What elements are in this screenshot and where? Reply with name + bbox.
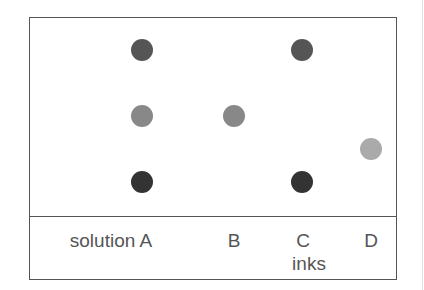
axis-label-inks: inks xyxy=(292,254,326,274)
ink-spot-a xyxy=(131,105,153,127)
ink-spot-b xyxy=(223,105,245,127)
column-label-b: B xyxy=(228,231,241,251)
column-label-a: solution A xyxy=(70,231,152,251)
ink-spot-c xyxy=(291,171,313,193)
ink-spot-a xyxy=(131,171,153,193)
column-label-c: C xyxy=(296,231,310,251)
ink-spot-c xyxy=(291,39,313,61)
baseline-divider xyxy=(29,216,397,217)
ink-spot-d xyxy=(360,138,382,160)
page-edge-line xyxy=(422,0,423,290)
ink-spot-a xyxy=(131,39,153,61)
column-label-d: D xyxy=(364,231,378,251)
